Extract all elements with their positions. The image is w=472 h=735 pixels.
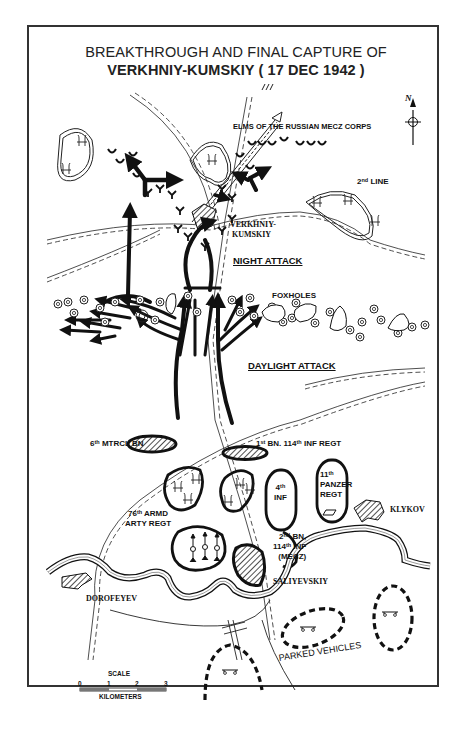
scale-tick-3: 3	[164, 680, 168, 687]
north-label: N	[405, 93, 412, 103]
marsh-areas	[58, 129, 380, 240]
scale-tick-2: 2	[135, 680, 139, 687]
label-daylight-attack: DAYLIGHT ATTACK	[248, 361, 336, 371]
label-76th-armd-arty-regt: 76th ARMDARTY REGT	[125, 509, 171, 529]
parked-vehicles	[205, 586, 412, 700]
scale-tick-0: 0	[78, 680, 82, 687]
scale-title: SCALE	[108, 670, 130, 677]
label-4th-inf: 4thINF	[274, 483, 287, 503]
attack-arrows	[65, 160, 265, 423]
label-2nd-bn-114th-inf-mecz: 2nd BN,114th INF(MECZ)	[273, 532, 306, 562]
scale-bar	[80, 688, 166, 691]
scale-unit: KILOMETERS	[99, 693, 142, 700]
dorofeyev-village	[62, 573, 92, 589]
map-canvas	[0, 0, 472, 735]
saliyevskiy-village	[233, 545, 264, 586]
label-foxholes: FOXHOLES	[272, 291, 316, 301]
label-dorofeyev: DOROFEYEV	[86, 594, 137, 604]
trails	[110, 600, 295, 690]
label-2nd-line: 2nd LINE	[357, 177, 389, 187]
north-arrow-icon	[405, 98, 421, 145]
label-mecz-corps: ELMS OF THE RUSSIAN MECZ CORPS	[233, 122, 371, 132]
label-1st-bn-114th-inf-regt: 1st BN. 114th INF REGT	[256, 439, 341, 449]
scale-tick-1: 1	[107, 680, 111, 687]
label-11th-panzer-regt: 11thPANZERREGT	[320, 470, 352, 500]
label-klykov: KLYKOV	[390, 505, 425, 515]
label-6th-mtrcl-bn: 6th MTRCL BN	[90, 439, 144, 449]
label-night-attack: NIGHT ATTACK	[233, 256, 302, 266]
label-verkhniy-kumskiy: VERKHNIY-KUMSKIY	[230, 220, 276, 240]
klykov-village	[354, 500, 384, 522]
label-saliyevskiy: SALIYEVSKIY	[273, 577, 328, 587]
